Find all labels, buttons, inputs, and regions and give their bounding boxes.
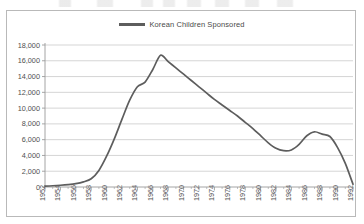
svg-text:2,000: 2,000 (22, 167, 40, 176)
svg-text:10,000: 10,000 (18, 104, 40, 113)
svg-text:16,000: 16,000 (18, 56, 40, 65)
svg-text:4,000: 4,000 (22, 151, 40, 160)
scan-artifact-strip (0, 0, 364, 7)
svg-text:12,000: 12,000 (18, 88, 40, 97)
line-chart-plot: 02,0004,0006,0008,00010,00012,00014,0001… (7, 11, 357, 218)
series-line-korean-children-sponsored (45, 55, 353, 186)
svg-text:6,000: 6,000 (22, 135, 40, 144)
svg-text:18,000: 18,000 (18, 41, 40, 50)
y-axis-labels-group: 02,0004,0006,0008,00010,00012,00014,0001… (18, 41, 40, 192)
svg-text:14,000: 14,000 (18, 72, 40, 81)
chart-container: Korean Children Sponsored 02,0004,0006,0… (6, 10, 356, 217)
gridlines-group (45, 45, 353, 171)
svg-text:8,000: 8,000 (22, 119, 40, 128)
